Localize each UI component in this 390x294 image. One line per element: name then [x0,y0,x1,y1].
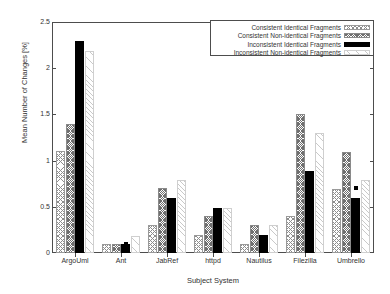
bar-ant-series1 [102,244,111,253]
bar-ant-series2 [112,244,121,253]
bar-umbrello-series3 [351,198,360,253]
x-axis-title: Subject System [52,276,374,285]
bar-argouml-series3 [75,41,84,253]
bar-argouml-series4 [85,51,94,253]
x-tick-mark [167,253,168,257]
bar-marker-jabref [170,223,174,227]
y-tick-mark [370,207,374,208]
bar-httpd-series4 [223,208,232,253]
bar-marker-ant [124,242,128,246]
x-tick-label-umbrello: Umbrello [311,257,390,264]
legend-swatch-consistent-identical [344,25,370,30]
bar-group-argouml [56,22,94,253]
legend-swatch-inconsistent-nonidentical [344,50,370,55]
legend-label: Consistent Non-identical Fragments [238,32,341,39]
legend-label: Inconsistent Identical Fragments [247,41,341,48]
bar-group-nautilus [240,22,278,253]
bar-httpd-series3 [213,208,222,253]
bar-umbrello-series4 [361,180,370,253]
bar-umbrello-series2 [342,152,351,253]
y-tick-label: 2.5 [0,18,55,25]
legend-swatch-consistent-nonidentical [344,33,370,38]
y-tick-label: 2 [0,64,55,71]
bar-jabref-series2 [158,188,167,253]
legend-label: Consistent Identical Fragments [251,24,341,31]
legend-item: Consistent Identical Fragments [211,23,370,31]
bar-chart: Mean Number of Changes [%] Subject Syste… [0,0,390,294]
bar-group-jabref [148,22,186,253]
bar-nautilus-series4 [269,225,278,253]
y-tick-mark [370,161,374,162]
legend-item: Inconsistent Non-identical Fragments [211,49,370,57]
bar-marker-argouml [78,149,82,153]
bar-httpd-series1 [194,235,203,253]
bar-filezilla-series4 [315,133,324,253]
y-tick-label: 1.5 [0,110,55,117]
bar-marker-umbrello [354,186,358,190]
y-tick-label: 0.5 [0,203,55,210]
bar-marker-filezilla [308,214,312,218]
bar-jabref-series4 [177,180,186,253]
legend-item: Inconsistent Identical Fragments [211,40,370,48]
bar-argouml-series2 [66,124,75,253]
y-tick-mark [370,68,374,69]
bar-argouml-series1 [56,151,65,253]
bar-group-httpd [194,22,232,253]
bar-jabref-series1 [148,225,157,253]
legend: Consistent Identical Fragments Consisten… [210,20,374,56]
bar-ant-series4 [131,236,140,253]
y-tick-mark [370,114,374,115]
bar-umbrello-series1 [332,189,341,253]
bar-group-umbrello [332,22,370,253]
x-tick-mark [75,253,76,257]
y-tick-label: 1 [0,157,55,164]
bar-nautilus-series1 [240,244,249,253]
x-tick-mark [259,253,260,257]
legend-item: Consistent Non-identical Fragments [211,32,370,40]
y-tick-label: 0 [0,249,55,256]
bar-marker-httpd [216,233,220,237]
bar-filezilla-series1 [286,216,295,253]
x-tick-mark [121,253,122,257]
x-tick-mark [305,253,306,257]
bar-httpd-series2 [204,216,213,253]
y-axis-title: Mean Number of Changes [%] [20,23,29,163]
bar-group-filezilla [286,22,324,253]
legend-swatch-inconsistent-identical [344,42,370,47]
bar-group-ant [102,22,140,253]
bar-marker-nautilus [262,242,266,246]
bar-nautilus-series2 [250,225,259,253]
bar-filezilla-series2 [296,114,305,253]
x-tick-mark [351,253,352,257]
legend-label: Inconsistent Non-identical Fragments [234,49,341,56]
x-tick-mark [213,253,214,257]
bar-filezilla-series3 [305,171,314,253]
